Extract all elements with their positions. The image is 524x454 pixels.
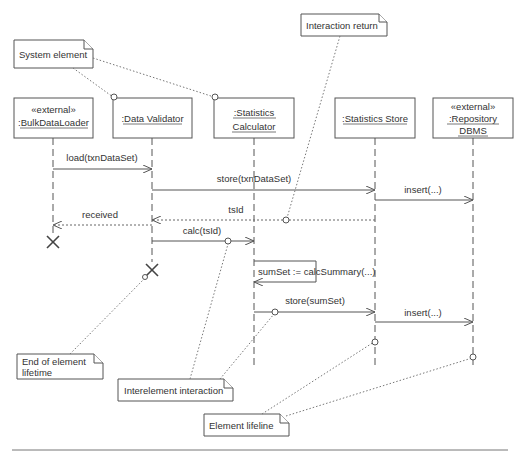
lifeline-head-dbms: «external» :Repository DBMS <box>433 98 513 138</box>
svg-text:store(sumSet): store(sumSet) <box>285 295 345 306</box>
lifeline-name: :Statistics Store <box>342 113 408 124</box>
return-tsid: tsId <box>152 204 375 220</box>
anchor-calc-msg-icon <box>225 238 231 244</box>
lifeline-head-validator: :Data Validator <box>113 98 192 138</box>
lifeline-name-line2: Calculator <box>233 121 276 132</box>
message-insert-1: insert(...) <box>375 184 473 200</box>
note-interaction-return: Interaction return <box>301 14 387 36</box>
anchor-destroy-icon <box>143 275 148 280</box>
lifeline-name-line2: DBMS <box>459 125 486 136</box>
anchor-return-icon <box>283 217 289 223</box>
note-end-of-lifetime: End of element lifetime <box>17 354 103 379</box>
svg-text:insert(...): insert(...) <box>404 307 441 318</box>
lifeline-name: :Data Validator <box>121 113 183 124</box>
return-received: received <box>53 209 152 225</box>
lifeline-name: :Repository <box>449 113 497 124</box>
message-insert-2: insert(...) <box>375 307 473 322</box>
note-connectors <box>70 36 472 416</box>
anchor-store-lifeline-icon <box>372 339 378 345</box>
lifeline-head-store: :Statistics Store <box>335 98 415 138</box>
svg-text:System element: System element <box>19 49 87 60</box>
lifeline-name: :BulkDataLoader <box>18 117 89 128</box>
stereotype: «external» <box>31 104 75 115</box>
message-calc: calc(tsId) <box>152 225 254 241</box>
self-call-calcsummary: sumSet := calcSummary(...) <box>254 261 375 282</box>
svg-text:sumSet := calcSummary(...): sumSet := calcSummary(...) <box>258 266 375 277</box>
lifeline-head-bulk: «external» :BulkDataLoader <box>14 98 93 138</box>
destroy-x-bulk-icon <box>47 236 59 248</box>
anchor-dbms-lifeline-icon <box>470 354 476 360</box>
sequence-diagram: «external» :BulkDataLoader :Data Validat… <box>0 0 524 454</box>
svg-text:store(txnDataSet): store(txnDataSet) <box>217 173 291 184</box>
svg-text:lifetime: lifetime <box>22 367 52 378</box>
note-element-lifeline: Element lifeline <box>204 414 289 436</box>
svg-text:calc(tsId): calc(tsId) <box>183 225 222 236</box>
svg-text:Interaction return: Interaction return <box>306 20 378 31</box>
svg-text:insert(...): insert(...) <box>404 184 441 195</box>
destroy-x-validator-icon <box>146 264 158 276</box>
svg-text:End of element: End of element <box>22 356 86 367</box>
note-interelement-interaction: Interelement interaction <box>118 379 233 401</box>
svg-text:Interelement interaction: Interelement interaction <box>124 385 223 396</box>
anchor-store-msg-icon <box>272 309 278 315</box>
anchor-calculator-icon <box>212 94 218 100</box>
message-store-sumset: store(sumSet) <box>254 295 375 312</box>
svg-text:received: received <box>82 209 118 220</box>
lifeline-name: :Statistics <box>234 107 275 118</box>
svg-text:load(txnDataSet): load(txnDataSet) <box>66 152 137 163</box>
message-store-txn: store(txnDataSet) <box>152 173 375 190</box>
note-system-element: System element <box>14 40 93 68</box>
lifeline-head-calculator: :Statistics Calculator <box>214 98 294 138</box>
anchor-validator-icon <box>111 94 117 100</box>
stereotype: «external» <box>451 101 495 112</box>
svg-text:tsId: tsId <box>228 204 243 215</box>
message-load: load(txnDataSet) <box>53 152 152 169</box>
svg-text:Element lifeline: Element lifeline <box>209 420 273 431</box>
